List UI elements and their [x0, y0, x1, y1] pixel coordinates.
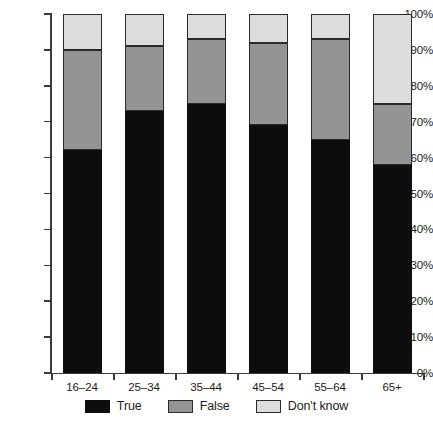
x-axis-tick [51, 373, 53, 380]
bar-segment-true [311, 140, 350, 373]
bar-segment-true [63, 150, 102, 373]
x-axis-tick-label: 16–24 [66, 381, 97, 393]
bar-group [249, 14, 288, 373]
x-axis-tick [423, 373, 425, 380]
x-axis-tick [113, 373, 115, 380]
x-axis-tick-label: 25–34 [128, 381, 159, 393]
bar-segment-false [125, 46, 164, 111]
bar-segment-false [187, 39, 226, 104]
bar-group [187, 14, 226, 373]
bar-segment-true [187, 104, 226, 373]
x-axis-tick-label: 35–44 [190, 381, 221, 393]
bar-segment-true [373, 165, 412, 373]
x-axis-tick [299, 373, 301, 380]
bar-segment-true [125, 111, 164, 373]
legend-item: Don't know [256, 399, 348, 413]
x-axis-tick [361, 373, 363, 380]
bar-segment-don-t-know [373, 14, 412, 104]
legend-label: False [200, 399, 230, 413]
bar-group [63, 14, 102, 373]
legend-item: False [168, 399, 230, 413]
bar-segment-false [311, 39, 350, 140]
bar-segment-don-t-know [125, 14, 164, 46]
bar-segment-false [373, 104, 412, 165]
bar-segment-don-t-know [249, 14, 288, 43]
plot-area [51, 14, 423, 373]
bar-segment-false [249, 43, 288, 126]
bar-segment-don-t-know [63, 14, 102, 50]
bar-group [373, 14, 412, 373]
legend-swatch-icon [256, 400, 281, 413]
bar-segment-true [249, 125, 288, 373]
legend-item: True [85, 399, 142, 413]
bar-group [311, 14, 350, 373]
x-axis-tick [175, 373, 177, 380]
x-axis-tick-label: 55–64 [314, 381, 345, 393]
bar-segment-don-t-know [187, 14, 226, 39]
chart-legend: TrueFalseDon't know [0, 399, 433, 413]
legend-label: Don't know [288, 399, 348, 413]
x-axis-tick-label: 65+ [382, 381, 401, 393]
bar-segment-false [63, 50, 102, 151]
x-axis-tick-label: 45–54 [252, 381, 283, 393]
bar-group [125, 14, 164, 373]
stacked-bar-chart: 0%10%20%30%40%50%60%70%80%90%100% 16–242… [0, 0, 433, 427]
legend-swatch-icon [168, 400, 193, 413]
legend-swatch-icon [85, 400, 110, 413]
bar-segment-don-t-know [311, 14, 350, 39]
x-axis-tick [237, 373, 239, 380]
legend-label: True [117, 399, 142, 413]
